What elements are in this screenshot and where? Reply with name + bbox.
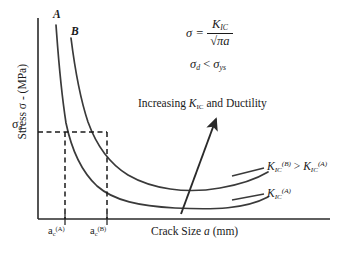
kic-a2-sup: (A) — [318, 160, 327, 168]
numerator-subscript: IC — [220, 23, 228, 32]
annotation-prefix: Increasing — [138, 97, 186, 109]
design-stress-inequality: σd < σys — [190, 58, 226, 72]
kic-b-base: K — [267, 160, 275, 172]
kic-a2-base: K — [303, 160, 311, 172]
curve-label-kic-comparison: KIC(B) > KIC(A) — [267, 161, 327, 174]
equation-lhs: σ — [186, 27, 192, 40]
x-title-units: (mm) — [213, 225, 239, 237]
x-tick-label-ac-b: ac(B) — [90, 226, 106, 238]
griffith-equation: σ = KIC √πa — [186, 18, 233, 48]
x-axis-title: Crack Size a (mm) — [151, 226, 238, 238]
x-title-prefix: Crack Size — [151, 225, 201, 237]
increasing-toughness-annotation: Increasing KIC and Ductility — [138, 98, 267, 111]
kic-a-base: K — [267, 187, 275, 199]
numerator-base: K — [212, 17, 220, 31]
denominator-expression: πa — [217, 33, 230, 48]
kic-comparison-operator: > — [294, 160, 301, 172]
inequality-operator: < — [203, 57, 210, 71]
equation-denominator: √πa — [207, 33, 232, 48]
x-tick-label-ac-a: ac(A) — [48, 226, 65, 238]
increasing-toughness-arrow — [181, 119, 216, 214]
inequality-rhs-sub: ys — [220, 63, 226, 72]
x-title-variable: a — [204, 225, 210, 237]
leader-line-kic-a — [232, 194, 264, 200]
annotation-suffix: and Ductility — [206, 97, 266, 109]
annotation-symbol-sub: IC — [196, 103, 203, 111]
equation-numerator: KIC — [209, 18, 231, 33]
kic-b-sup: (B) — [282, 160, 291, 168]
chart-canvas — [0, 0, 342, 256]
kic-b-sub: IC — [275, 166, 282, 174]
ac-b-sup: (B) — [98, 225, 107, 232]
curve-marker-a: A — [53, 9, 61, 21]
curve-label-kic-a: KIC(A) — [267, 188, 291, 201]
curve-marker-b: B — [71, 26, 79, 38]
curve-series-a — [56, 25, 268, 209]
equation-equals: = — [196, 27, 203, 40]
fracture-mechanics-figure: Stress σ - (MPa) σd A B ac(A) ac(B) Crac… — [0, 0, 342, 256]
kic-a-sub: IC — [275, 193, 282, 201]
equation-fraction: KIC √πa — [207, 18, 232, 48]
curve-series-b — [71, 38, 268, 190]
ac-a-sup: (A) — [56, 225, 65, 232]
inequality-lhs-sub: d — [196, 63, 200, 72]
y-tick-label-design-stress: σd — [12, 118, 22, 132]
kic-a2-sub: IC — [311, 166, 318, 174]
y-axis-title: Stress σ - (MPa) — [17, 42, 29, 162]
kic-a-sup: (A) — [282, 187, 291, 195]
leader-line-kic-b — [232, 168, 264, 176]
sigma-subscript: d — [18, 123, 22, 132]
